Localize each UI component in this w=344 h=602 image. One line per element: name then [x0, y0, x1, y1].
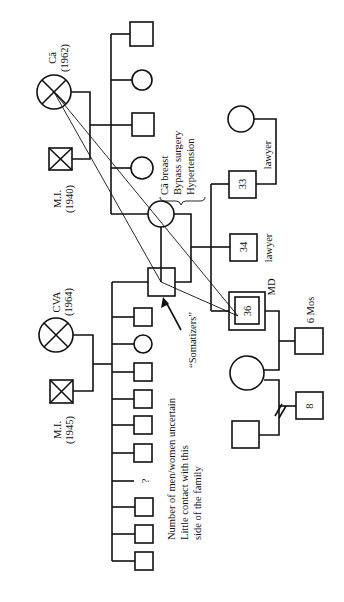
somatizers-label: “Somatizers” — [187, 312, 198, 368]
lower-grandfather-cause: M.I. — [52, 421, 63, 439]
mother-circle — [148, 201, 174, 227]
lower-grandmother — [39, 318, 73, 352]
upper-child-female-1 — [132, 70, 152, 90]
lower-grandfather-year: (1945) — [64, 416, 76, 444]
upper-grandmother-cause: Cā — [47, 52, 58, 64]
lower-grandmother-year: (1964) — [63, 288, 75, 316]
sibling-33-spouse — [228, 106, 254, 132]
relation-line — [161, 282, 238, 316]
uncertain-note-2: Little contact with this — [179, 445, 190, 540]
upper-child-female-2 — [131, 157, 153, 179]
wife-ex-husband — [232, 421, 259, 448]
genogram-diagram: Cā (1962) M.I. (1940) Cā breast Bypass s… — [0, 0, 344, 602]
child-6-months — [295, 328, 323, 354]
uncertain-note-1: Number of men/women uncertain — [166, 397, 177, 540]
upper-grandfather-cause: M.I. — [52, 190, 63, 208]
mother-note-3: Hypertension — [185, 138, 196, 195]
lower-grandmother-cause: CVA — [51, 291, 62, 312]
upper-grandfather-year: (1940) — [64, 185, 76, 213]
sibling-36-occupation: MD — [266, 278, 277, 295]
sibling-33-age: 33 — [237, 179, 248, 190]
sibling-34-age: 34 — [238, 241, 249, 252]
child-8-age: 8 — [304, 403, 315, 408]
wife-of-36 — [230, 356, 264, 390]
unknown-sibling-marker: ? — [140, 478, 151, 483]
sibling-34-occupation: lawyer — [263, 233, 274, 262]
mother-note-1: Cā breast — [159, 156, 170, 195]
upper-grandfather — [49, 148, 72, 170]
upper-grandmother-year: (1962) — [59, 44, 71, 72]
sibling-33-occupation: lawyer — [262, 140, 273, 169]
upper-child-male-2 — [132, 113, 154, 136]
sibling-36-age: 36 — [242, 306, 253, 317]
lower-grandfather — [50, 380, 73, 403]
lower-siblings — [112, 308, 153, 570]
child-6-months-label: 6 Mos — [305, 297, 316, 324]
mother-note-2: Bypass surgery — [172, 130, 183, 195]
uncertain-note-3: side of the family — [192, 465, 203, 540]
upper-child-male-1 — [130, 22, 153, 46]
